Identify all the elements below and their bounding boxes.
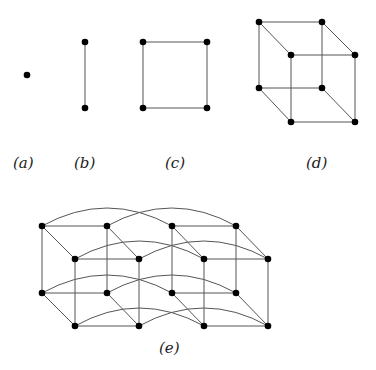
hypercube-diagram: (a) (b) (c) (d) (e) bbox=[0, 0, 376, 370]
edges bbox=[42, 22, 355, 326]
nodes bbox=[24, 19, 359, 330]
label-c: (c) bbox=[165, 154, 185, 172]
label-b: (b) bbox=[74, 154, 95, 172]
label-d: (d) bbox=[306, 154, 327, 172]
label-a: (a) bbox=[13, 154, 34, 172]
label-e: (e) bbox=[159, 339, 180, 357]
